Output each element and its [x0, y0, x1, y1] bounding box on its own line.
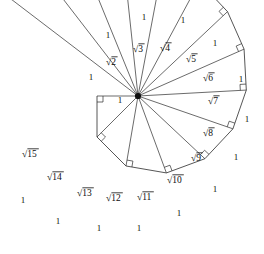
hypotenuse-label-text-7: √7: [208, 96, 218, 106]
unit-length-label-2: 1: [118, 95, 123, 105]
spiral-apex-point: [135, 93, 141, 99]
hypotenuse-line-4: [138, 96, 166, 173]
right-angle-marker-9: [219, 7, 223, 15]
hypotenuse-label-8: √8: [203, 128, 215, 138]
spiral-diagram-canvas: √2√3√4√5√6√7√8√9√10√11√12√13√14√15 11111…: [0, 0, 264, 254]
unit-length-label-6: 1: [213, 38, 218, 48]
unit-length-label-5: 1: [181, 15, 186, 25]
hypotenuse-line-7: [138, 90, 246, 96]
unit-length-label-1: 1: [89, 72, 94, 82]
unit-length-label-7: 1: [239, 74, 244, 84]
hypotenuse-label-11: √11: [137, 192, 154, 202]
hypotenuse-label-text-11: √11: [137, 192, 152, 202]
unit-length-label-13: 1: [97, 223, 102, 233]
spiral-apex-group: [135, 93, 141, 99]
hypotenuse-label-text-8: √8: [203, 128, 213, 138]
hypotenuse-label-6: √6: [203, 73, 215, 83]
hypotenuse-label-9: √9: [191, 153, 203, 163]
unit-length-label-3: 1: [106, 30, 111, 40]
hypotenuse-label-3: √3: [133, 44, 145, 54]
hypotenuse-label-text-9: √9: [191, 153, 201, 163]
unit-length-label-11: 1: [177, 208, 182, 218]
spiral-of-theodorus-figure: √2√3√4√5√6√7√8√9√10√11√12√13√14√15 11111…: [0, 0, 264, 254]
unit-length-label-12: 1: [137, 223, 142, 233]
hypotenuse-label-7: √7: [208, 96, 220, 106]
right-angle-marker-7: [240, 84, 246, 90]
unit-length-label-10: 1: [213, 184, 218, 194]
hypotenuse-label-text-14: √14: [47, 172, 62, 182]
hypotenuse-spokes-group: [12, 0, 247, 173]
hypotenuse-label-text-4: √4: [160, 43, 170, 53]
hypotenuse-label-5: √5: [186, 54, 198, 64]
hypotenuse-line-6: [138, 96, 233, 129]
unit-edge-9: [199, 0, 227, 12]
hypotenuse-line-5: [138, 96, 205, 159]
right-angle-markers-group: [39, 0, 246, 171]
hypotenuse-label-text-5: √5: [186, 54, 196, 64]
unit-length-label-8: 1: [245, 114, 250, 124]
hypotenuse-label-text-2: √2: [106, 57, 116, 67]
hypotenuse-label-14: √14: [47, 172, 64, 182]
hypotenuse-label-10: √10: [167, 175, 184, 185]
hypotenuse-label-12: √12: [106, 193, 123, 203]
unit-edge-8: [228, 12, 245, 50]
hypotenuse-label-text-12: √12: [106, 193, 121, 203]
hypotenuse-label-2: √2: [106, 57, 118, 67]
hypotenuse-label-text-13: √13: [77, 188, 92, 198]
hypotenuse-label-4: √4: [160, 43, 172, 53]
hypotenuse-label-text-15: √15: [22, 149, 37, 159]
hypotenuse-label-13: √13: [77, 188, 94, 198]
unit-length-label-14: 1: [56, 216, 61, 226]
hypotenuse-label-text-3: √3: [133, 44, 143, 54]
unit-length-label-4: 1: [142, 12, 147, 22]
hypotenuse-label-15: √15: [22, 149, 39, 159]
hypotenuse-label-text-6: √6: [203, 73, 213, 83]
unit-length-label-9: 1: [234, 152, 239, 162]
hypotenuse-label-text-10: √10: [167, 175, 182, 185]
unit-length-label-15: 1: [21, 195, 26, 205]
right-angle-marker-2: [101, 133, 105, 141]
right-angle-marker-1: [97, 96, 103, 102]
hypotenuse-labels-group: √2√3√4√5√6√7√8√9√10√11√12√13√14√15: [22, 43, 220, 203]
